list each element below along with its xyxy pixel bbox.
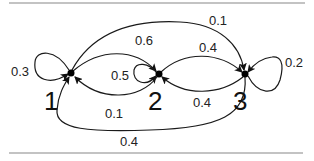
edge-3-3 (248, 57, 282, 91)
edge-3-2-label: 0.4 (193, 95, 211, 110)
edge-3-3-label: 0.2 (285, 55, 303, 70)
edge-1-1 (35, 53, 69, 80)
node-3 (242, 71, 249, 78)
edge-1-3-label: 0.1 (209, 13, 227, 28)
node-3-label: 3 (233, 86, 247, 116)
edge-1-1-label: 0.3 (11, 64, 29, 79)
node-1 (68, 70, 75, 77)
edge-1-2-label: 0.6 (135, 33, 153, 48)
edge-1-3 (72, 22, 244, 70)
edge-3-1-label: 0.4 (120, 134, 138, 149)
node-1-label: 1 (44, 86, 58, 116)
edge-2-2-label: 0.5 (111, 68, 129, 83)
node-2 (156, 71, 163, 78)
node-2-label: 2 (148, 86, 162, 116)
edge-2-3-label: 0.4 (199, 40, 217, 55)
edge-2-2 (134, 64, 157, 82)
edge-2-3 (161, 56, 242, 72)
markov-chain-diagram: 1 2 3 0.3 0.6 0.1 0.5 0.1 0.4 0.4 0.2 0.… (0, 0, 314, 161)
edge-2-1-label: 0.1 (105, 106, 123, 121)
edge-3-2 (162, 77, 243, 91)
